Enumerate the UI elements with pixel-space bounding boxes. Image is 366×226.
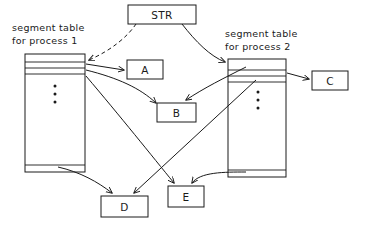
segment-e-label: E [182, 191, 189, 203]
segment-a-label: A [141, 64, 149, 76]
diagram-canvas: STR A B C D E segment table [0, 0, 366, 226]
connector-str-to-left-table [89, 24, 136, 60]
right-table-ellipsis-dot-3 [257, 107, 260, 110]
left-table-ellipsis-dot-3 [54, 101, 57, 104]
right-segment-table [228, 59, 286, 177]
left-caption-line-2: for process 1 [12, 35, 78, 46]
right-caption-line-2: for process 2 [225, 41, 291, 52]
left-segment-table-body [25, 54, 85, 172]
connector-left-table-to-e [86, 76, 174, 183]
connector-str-to-right-table [182, 24, 225, 62]
connector-left-table-to-a [86, 64, 124, 70]
left-table-ellipsis-dot-1 [54, 85, 57, 88]
segmentation-diagram: STR A B C D E segment table [0, 0, 366, 226]
right-table-caption: segment table for process 2 [225, 28, 298, 52]
connector-right-table-to-c [287, 73, 309, 79]
left-table-ellipsis-dot-2 [54, 93, 57, 96]
segment-box-d: D [101, 196, 148, 217]
right-table-ellipsis-dot-1 [257, 91, 260, 94]
left-caption-line-1: segment table [12, 22, 85, 33]
segment-d-label: D [120, 201, 129, 213]
right-table-ellipsis-dot-2 [257, 99, 260, 102]
str-box-label: STR [151, 9, 173, 21]
segment-c-label: C [326, 75, 334, 87]
str-register-box: STR [128, 5, 196, 24]
right-caption-line-1: segment table [225, 28, 298, 39]
right-segment-table-body [228, 59, 286, 177]
segment-box-c: C [312, 71, 348, 90]
left-table-caption: segment table for process 1 [12, 22, 85, 46]
left-segment-table [25, 54, 85, 172]
segment-box-b: B [157, 103, 196, 122]
segment-b-label: B [173, 107, 181, 119]
segment-box-e: E [168, 186, 204, 207]
segment-box-a: A [127, 60, 163, 79]
